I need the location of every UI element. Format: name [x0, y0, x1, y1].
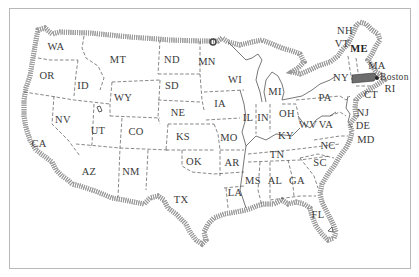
state-label-or: OR: [39, 70, 54, 81]
state-label-nd: ND: [164, 54, 180, 65]
state-label-ct: CT: [364, 89, 378, 100]
state-label-sd: SD: [165, 80, 179, 91]
state-label-id: ID: [77, 80, 89, 91]
state-label-me: ME: [350, 43, 368, 54]
state-label-nc: NC: [320, 140, 335, 151]
state-label-nj: NJ: [357, 107, 369, 118]
state-label-md: MD: [357, 134, 375, 145]
state-label-wv: WV: [299, 119, 317, 130]
state-label-sc: SC: [313, 157, 326, 168]
state-label-pa: PA: [318, 92, 331, 103]
state-label-il: IL: [243, 112, 254, 123]
state-label-wy: WY: [114, 92, 132, 103]
state-label-nh: NH: [337, 25, 353, 36]
state-label-mn: MN: [198, 56, 216, 67]
state-label-ia: IA: [214, 98, 226, 109]
state-label-tn: TN: [270, 149, 285, 160]
state-label-ks: KS: [176, 131, 190, 142]
state-label-mt: MT: [110, 54, 127, 65]
state-label-fl: FL: [312, 209, 325, 220]
state-label-wi: WI: [228, 74, 242, 85]
state-label-ms: MS: [245, 175, 261, 186]
state-label-mi: MI: [268, 86, 282, 97]
state-label-tx: TX: [174, 194, 189, 205]
state-label-ne: NE: [171, 107, 186, 118]
us-map: WAORIDMTWYNDSDMNNENVUTCOKSCAAZNMOKTXWIIA…: [0, 0, 419, 277]
state-label-de: DE: [356, 120, 371, 131]
state-label-wa: WA: [48, 41, 65, 52]
state-label-ri: RI: [384, 83, 395, 94]
boston-marker: [375, 76, 379, 80]
state-label-nv: NV: [55, 114, 71, 125]
state-labels: WAORIDMTWYNDSDMNNENVUTCOKSCAAZNMOKTXWIIA…: [31, 25, 395, 220]
state-label-ut: UT: [91, 125, 106, 136]
state-label-ky: KY: [278, 130, 294, 141]
state-label-ca: CA: [31, 138, 46, 149]
state-label-al: AL: [268, 175, 283, 186]
massachusetts-highlight: [352, 73, 377, 83]
state-label-nm: NM: [122, 166, 140, 177]
state-label-co: CO: [128, 126, 143, 137]
state-label-la: LA: [228, 187, 243, 198]
state-label-vt: VT: [335, 38, 350, 49]
state-label-ma: MA: [368, 60, 386, 71]
state-label-in: IN: [257, 112, 269, 123]
state-label-ny: NY: [333, 72, 349, 83]
state-label-az: AZ: [82, 166, 97, 177]
state-label-va: VA: [319, 119, 334, 130]
state-label-ok: OK: [186, 156, 202, 167]
boston-label: Boston: [380, 72, 409, 82]
state-label-mo: MO: [220, 132, 238, 143]
state-label-oh: OH: [279, 108, 295, 119]
state-label-ar: AR: [224, 157, 239, 168]
state-label-ga: GA: [289, 175, 305, 186]
